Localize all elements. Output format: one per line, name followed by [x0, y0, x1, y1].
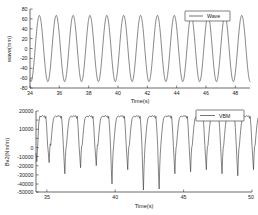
vbm-ytick-0: 0	[31, 145, 34, 151]
wave-x-tick-labels: 34 36 38 40 42 44 46 48	[27, 90, 238, 96]
wave-xtick-36: 36	[56, 90, 62, 96]
vbm-xtick-45: 45	[181, 194, 187, 200]
wave-chart-panel: 80 60 40 20 0 -20 -40 -60 -80	[0, 0, 258, 106]
vbm-y-axis-title: Bv2(Nm/m)	[4, 138, 10, 166]
vbm-ytick-m50000: -50000	[17, 189, 33, 195]
wave-xtick-34: 34	[27, 90, 33, 96]
vbm-xtick-50: 50	[248, 194, 254, 200]
wave-x-axis-title: Time(s)	[131, 98, 150, 104]
wave-ytick-m40: -40	[20, 65, 28, 71]
vbm-ytick-m10000: -10000	[17, 154, 33, 160]
vbm-series-line	[36, 115, 258, 190]
wave-ytick-m20: -20	[20, 55, 28, 61]
vbm-ytick-m40000: -40000	[17, 181, 33, 187]
wave-ytick-80: 80	[22, 6, 28, 12]
wave-xtick-42: 42	[144, 90, 150, 96]
wave-y-axis-title: wave(mm)	[6, 36, 12, 63]
wave-x-ticks	[30, 86, 235, 88]
vbm-y-tick-labels: 20000 10000 0 -10000 -20000 -30000 -4000…	[17, 108, 33, 195]
wave-legend[interactable]: Wave	[185, 11, 230, 21]
wave-chart-svg: 80 60 40 20 0 -20 -40 -60 -80	[0, 0, 258, 106]
wave-ytick-60: 60	[22, 16, 28, 22]
vbm-ytick-m20000: -20000	[17, 163, 33, 169]
vbm-legend-label: VBM	[219, 113, 230, 119]
vbm-legend[interactable]: VBM	[196, 110, 244, 121]
wave-y-tick-labels: 80 60 40 20 0 -20 -40 -60 -80	[20, 6, 28, 91]
vbm-ytick-m30000: -30000	[17, 172, 33, 178]
wave-xtick-46: 46	[203, 90, 209, 96]
vbm-x-tick-labels: 35 40 45 50	[44, 194, 254, 200]
vbm-chart-panel: 20000 10000 0 -10000 -20000 -30000 -4000…	[0, 105, 258, 215]
wave-ytick-40: 40	[22, 26, 28, 32]
wave-ytick-0: 0	[25, 46, 28, 52]
wave-xtick-44: 44	[174, 90, 180, 96]
vbm-x-axis-title: Time(s)	[135, 203, 154, 209]
wave-legend-label: Wave	[207, 13, 220, 19]
wave-xtick-38: 38	[86, 90, 92, 96]
wave-ytick-20: 20	[22, 36, 28, 42]
vbm-ytick-10000: 10000	[19, 126, 34, 132]
wave-xtick-48: 48	[232, 90, 238, 96]
vbm-x-ticks	[47, 190, 252, 192]
vbm-xtick-40: 40	[112, 194, 118, 200]
vbm-chart-svg: 20000 10000 0 -10000 -20000 -30000 -4000…	[0, 105, 258, 215]
wave-series-line	[30, 15, 250, 81]
vbm-ytick-20000: 20000	[19, 108, 34, 114]
wave-xtick-40: 40	[115, 90, 121, 96]
wave-ytick-m60: -60	[20, 75, 28, 81]
figure-container: 80 60 40 20 0 -20 -40 -60 -80	[0, 0, 258, 215]
vbm-xtick-35: 35	[44, 194, 50, 200]
